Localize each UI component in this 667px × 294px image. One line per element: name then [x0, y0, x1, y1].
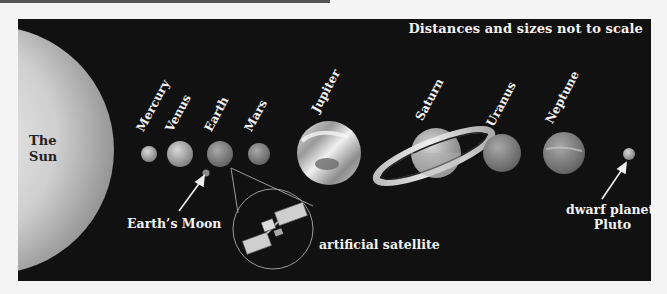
venus-icon — [167, 141, 193, 167]
satellite-icon — [237, 202, 313, 254]
sun-label: The Sun — [29, 133, 57, 165]
jupiter-icon — [297, 121, 361, 185]
sun-label-line2: Sun — [29, 149, 57, 165]
mars-icon — [248, 143, 270, 165]
solar-system-diagram: Distances and sizes not to scale The Sun… — [18, 19, 651, 281]
sun-label-line1: The — [29, 133, 57, 149]
moon-arrow-icon — [179, 176, 204, 211]
pluto-caption-line1: dwarf planet: — [566, 202, 651, 217]
mercury-icon — [141, 146, 157, 162]
earth-icon — [207, 141, 233, 167]
moon-caption: Earth’s Moon — [127, 216, 221, 231]
pluto-arrow-icon — [602, 163, 626, 199]
pluto-caption-line2: Pluto — [566, 217, 651, 232]
pluto-icon — [623, 148, 635, 160]
satellite-caption: artificial satellite — [319, 237, 440, 252]
saturn-icon — [371, 120, 496, 192]
scale-disclaimer: Distances and sizes not to scale — [408, 21, 643, 36]
top-border-bar — [0, 0, 330, 3]
neptune-icon — [543, 132, 585, 174]
pluto-caption: dwarf planet: Pluto — [566, 202, 651, 232]
uranus-icon — [483, 134, 521, 172]
